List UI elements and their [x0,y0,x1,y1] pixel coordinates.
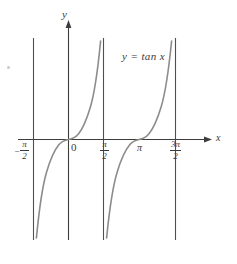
equation-annotation: y = tan x [122,51,165,62]
x-axis-label: x [216,133,220,143]
numerator-pi: π [101,140,108,149]
y-axis-arrow [66,20,72,28]
numerator-pi: π [21,140,28,149]
x-axis-arrow [204,137,212,143]
tangent-function-graph: y x y = tan x − π 2 0 π 2 π 3π 2 [0,0,237,264]
tick-label-origin: 0 [71,142,77,153]
denominator-2: 2 [172,152,179,161]
numerator-three-pi: 3π [170,140,181,149]
tick-label-pi: π [137,143,142,153]
y-axis [66,20,72,240]
plot-canvas [0,0,237,264]
y-axis-label: y [62,9,67,20]
denominator-2: 2 [101,152,108,161]
denominator-2: 2 [21,152,28,161]
x-axis [18,137,212,143]
